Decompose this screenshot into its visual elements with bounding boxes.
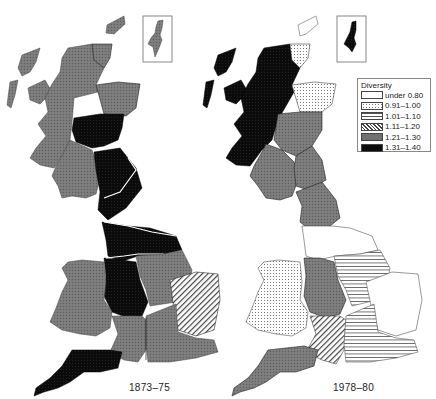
legend-label: under 0.80 bbox=[385, 91, 423, 100]
map-label-1873: 1873–75 bbox=[129, 382, 170, 393]
region-north-east-scotland[interactable] bbox=[292, 82, 336, 112]
legend-label: 1.31–1.40 bbox=[385, 143, 421, 152]
map-1873 bbox=[7, 16, 220, 396]
legend-swatch-hlines bbox=[361, 112, 383, 120]
region-wales[interactable] bbox=[246, 260, 308, 336]
region-western-isles-b[interactable] bbox=[203, 80, 214, 108]
legend: Diversity under 0.80 0.91–1.00 1.01–1.10… bbox=[357, 78, 431, 152]
map-1978 bbox=[203, 16, 422, 396]
region-south-west[interactable] bbox=[232, 346, 318, 396]
region-east-central-scotland[interactable] bbox=[72, 114, 124, 148]
region-western-isles-a[interactable] bbox=[18, 48, 40, 76]
region-orkney[interactable] bbox=[298, 16, 318, 36]
legend-label: 1.21–1.30 bbox=[385, 133, 421, 142]
legend-swatch-black bbox=[361, 144, 383, 152]
legend-item: 1.01–1.10 bbox=[361, 111, 427, 122]
figure: 1873–75 1978–80 Diversity under 0.80 0.9… bbox=[0, 0, 436, 399]
region-northern-england[interactable] bbox=[296, 182, 340, 230]
legend-item: 1.31–1.40 bbox=[361, 143, 427, 154]
legend-item: 0.91–1.00 bbox=[361, 101, 427, 112]
legend-label: 1.11–1.20 bbox=[385, 122, 420, 131]
legend-item: 1.21–1.30 bbox=[361, 132, 427, 143]
legend-swatch-blank bbox=[361, 91, 383, 99]
region-northern-england[interactable] bbox=[94, 148, 142, 220]
legend-swatch-grey bbox=[361, 133, 383, 141]
region-western-isles-b[interactable] bbox=[7, 80, 18, 108]
legend-item: under 0.80 bbox=[361, 90, 427, 101]
region-north-east-scotland[interactable] bbox=[96, 82, 140, 116]
legend-item: 1.11–1.20 bbox=[361, 122, 427, 133]
legend-label: 0.91–1.00 bbox=[385, 101, 421, 110]
maps-canvas bbox=[0, 0, 436, 399]
legend-swatch-dots bbox=[361, 102, 383, 110]
region-shetland[interactable] bbox=[148, 20, 163, 57]
region-south-west[interactable] bbox=[34, 350, 122, 396]
region-western-isles-a[interactable] bbox=[214, 48, 236, 76]
region-orkney[interactable] bbox=[106, 16, 125, 34]
legend-label: 1.01–1.10 bbox=[385, 112, 421, 121]
legend-swatch-diagonal bbox=[361, 123, 383, 131]
map-label-1978: 1978–80 bbox=[333, 382, 374, 393]
region-shetland[interactable] bbox=[344, 21, 356, 52]
legend-title: Diversity bbox=[361, 81, 427, 90]
region-wales[interactable] bbox=[50, 260, 112, 336]
